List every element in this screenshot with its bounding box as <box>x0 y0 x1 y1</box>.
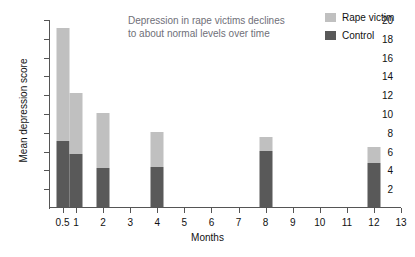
y-tick-label: 2 <box>387 184 393 195</box>
y-tick-mark <box>44 76 49 77</box>
x-tick-mark <box>320 208 321 213</box>
x-tick-label: 13 <box>395 217 406 228</box>
y-tick-label: 12 <box>382 90 393 101</box>
x-tick-mark <box>239 208 240 213</box>
y-tick-mark <box>44 189 49 190</box>
legend-swatch-icon <box>325 13 336 22</box>
bar-segment-rape-victim <box>97 113 110 168</box>
x-tick-mark <box>157 208 158 213</box>
y-tick-mark <box>44 114 49 115</box>
legend-label: Control <box>342 30 374 41</box>
y-tick-mark <box>44 95 49 96</box>
bar-12-months <box>367 147 380 207</box>
x-tick-mark <box>374 208 375 213</box>
bar-segment-control <box>97 168 110 207</box>
y-axis-title: Mean depression score <box>18 26 29 196</box>
legend-swatch-icon <box>325 31 336 40</box>
bar-segment-rape-victim <box>56 28 69 141</box>
x-axis-line <box>49 207 401 208</box>
x-tick-label: 6 <box>209 217 215 228</box>
x-tick-label: 10 <box>314 217 325 228</box>
bar-4-months <box>151 132 164 207</box>
x-tick-mark <box>266 208 267 213</box>
x-tick-label: 0.5 <box>56 217 70 228</box>
x-tick-label: 2 <box>100 217 106 228</box>
x-tick-label: 3 <box>127 217 133 228</box>
bar-0.5-months <box>56 28 69 207</box>
plot-area: 2468101214161820 0.512345678910111213 <box>49 20 401 208</box>
x-tick-mark <box>130 208 131 213</box>
y-tick-label: 4 <box>387 165 393 176</box>
y-tick-label: 14 <box>382 71 393 82</box>
x-tick-mark <box>184 208 185 213</box>
bar-segment-control <box>56 141 69 207</box>
x-tick-mark <box>63 208 64 213</box>
x-tick-mark <box>211 208 212 213</box>
x-axis-title: Months <box>0 232 415 243</box>
x-tick-mark <box>103 208 104 213</box>
depression-score-bar-chart: Mean depression score 2468101214161820 0… <box>0 0 415 257</box>
x-tick-mark <box>347 208 348 213</box>
bar-segment-rape-victim <box>70 93 83 154</box>
y-tick-label: 8 <box>387 127 393 138</box>
legend-item: Control <box>325 30 394 41</box>
x-tick-label: 9 <box>290 217 296 228</box>
bar-segment-control <box>259 151 272 207</box>
bar-segment-control <box>151 167 164 207</box>
x-tick-mark <box>76 208 77 213</box>
y-tick-mark <box>44 133 49 134</box>
legend-label: Rape victim <box>342 12 394 23</box>
bar-1-months <box>70 93 83 207</box>
chart-legend: Rape victimControl <box>325 12 394 48</box>
y-tick-mark <box>44 152 49 153</box>
legend-item: Rape victim <box>325 12 394 23</box>
y-tick-label: 6 <box>387 146 393 157</box>
x-tick-mark <box>293 208 294 213</box>
chart-annotation: Depression in rape victims declines to a… <box>128 14 285 40</box>
bar-8-months <box>259 137 272 207</box>
y-tick-label: 10 <box>382 109 393 120</box>
bar-segment-rape-victim <box>259 137 272 151</box>
x-tick-mark <box>401 208 402 213</box>
y-tick-mark <box>44 170 49 171</box>
x-tick-label: 8 <box>263 217 269 228</box>
bar-segment-control <box>367 163 380 207</box>
x-tick-label: 5 <box>182 217 188 228</box>
y-tick-mark <box>44 39 49 40</box>
bar-segment-rape-victim <box>367 147 380 163</box>
bar-segment-control <box>70 154 83 207</box>
y-tick-label: 16 <box>382 52 393 63</box>
y-tick-mark <box>44 20 49 21</box>
y-tick-mark <box>44 58 49 59</box>
bar-segment-rape-victim <box>151 132 164 167</box>
x-tick-label: 4 <box>155 217 161 228</box>
x-tick-label: 7 <box>236 217 242 228</box>
x-tick-label: 12 <box>368 217 379 228</box>
x-tick-label: 11 <box>342 217 352 228</box>
y-axis-line <box>49 20 50 209</box>
bar-2-months <box>97 113 110 207</box>
x-tick-label: 1 <box>73 217 79 228</box>
